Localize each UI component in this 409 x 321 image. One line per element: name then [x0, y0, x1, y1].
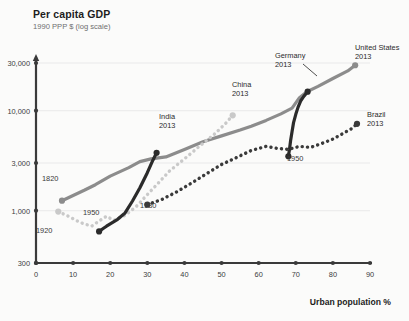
x-tick-label: 60 — [255, 270, 263, 279]
x-axis-tick — [71, 261, 75, 265]
series-label-brazil-year: 2013 — [367, 119, 383, 128]
plot-area — [0, 0, 409, 321]
y-tick-label: 30,000 — [7, 59, 30, 68]
x-tick-label: 90 — [366, 270, 374, 279]
x-tick-label: 50 — [217, 270, 225, 279]
series-start-marker-india — [96, 228, 102, 234]
y-axis-tick — [34, 161, 38, 165]
series-end-marker-india — [154, 150, 160, 156]
series-label-germany-year: 2013 — [275, 60, 291, 69]
y-tick-label: 1,000 — [12, 206, 31, 215]
x-axis-tick — [182, 261, 186, 265]
annotation-brazil-start-year: 1930 — [140, 202, 156, 211]
series-end-marker-china — [230, 112, 236, 118]
annotation-germany-start-year: 1950 — [287, 155, 303, 164]
series-start-marker-united-states — [59, 198, 65, 204]
y-tick-label: 10,000 — [7, 106, 30, 115]
series-label-china: China 2013 — [232, 81, 251, 98]
y-axis-tick — [34, 61, 38, 65]
y-axis-tick — [34, 109, 38, 113]
x-axis-tick — [294, 261, 298, 265]
annotation-us-start-year: 1820 — [42, 175, 58, 184]
series-end-marker-germany — [305, 89, 311, 95]
annotation-china-start-year: 1920 — [36, 227, 52, 236]
y-axis-tick — [34, 209, 38, 213]
series-label-united-states-year: 2013 — [355, 52, 371, 61]
series-label-germany: Germany 2013 — [275, 52, 305, 69]
series-line-india — [99, 153, 157, 232]
x-tick-label: 80 — [329, 270, 337, 279]
x-tick-label: 10 — [69, 270, 77, 279]
series-start-marker-china — [55, 208, 61, 214]
x-axis-label: Urban population % — [310, 297, 391, 307]
x-tick-label: 40 — [180, 270, 188, 279]
series-label-united-states: United States 2013 — [355, 44, 399, 61]
x-axis-tick — [368, 261, 372, 265]
x-axis-tick — [145, 261, 149, 265]
y-tick-label: 3,000 — [12, 159, 31, 168]
y-axis-arrow-icon — [33, 54, 39, 61]
x-tick-label: 20 — [106, 270, 114, 279]
series-end-marker-brazil — [354, 121, 360, 127]
y-tick-label: 300 — [18, 259, 30, 268]
x-axis-tick — [34, 261, 38, 265]
per-capita-gdp-chart: Per capita GDP 1990 PPP $ (log scale) 30… — [0, 0, 409, 321]
series-line-united-states — [62, 65, 355, 200]
series-label-brazil: Brazil 2013 — [367, 111, 385, 128]
series-label-china-year: 2013 — [232, 89, 248, 98]
series-label-india-year: 2013 — [159, 121, 175, 130]
x-axis-tick — [219, 261, 223, 265]
x-axis-tick — [257, 261, 261, 265]
series-end-marker-united-states — [352, 62, 358, 68]
x-tick-label: 0 — [34, 270, 38, 279]
x-tick-label: 70 — [292, 270, 300, 279]
x-axis-tick — [108, 261, 112, 265]
series-label-india: India 2013 — [159, 113, 175, 130]
x-tick-label: 30 — [143, 270, 151, 279]
annotation-india-start-year: 1950 — [83, 209, 99, 218]
x-axis-tick — [331, 261, 335, 265]
